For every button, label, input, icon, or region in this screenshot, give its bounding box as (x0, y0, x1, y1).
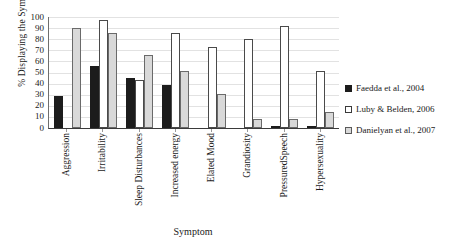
bar (316, 71, 325, 128)
y-axis-tick-label: 50 (20, 68, 44, 77)
x-axis-label-cell: Aggression (48, 133, 84, 221)
x-axis-label-cell: Elated Mood (193, 133, 229, 221)
legend-item-label: Faedda et al., 2004 (356, 83, 424, 93)
chart-legend: Faedda et al., 2004Luby & Belden, 2006Da… (345, 83, 457, 146)
bar (126, 78, 135, 128)
y-axis-tick-label: 30 (20, 90, 44, 99)
x-axis-tick-labels: AggressionIrritabilitySleep Disturbances… (48, 133, 338, 221)
x-axis-label-cell: Grandiosity (229, 133, 265, 221)
x-axis-label-cell: Increased energy (157, 133, 193, 221)
x-axis-tick-label: Aggression (61, 133, 71, 176)
bar-group (122, 17, 158, 128)
x-axis-tick-label: PressuredSpeech (279, 133, 289, 197)
legend-swatch-icon (345, 85, 352, 92)
bar (217, 94, 226, 128)
bar-group (158, 17, 194, 128)
legend-swatch-icon (345, 127, 352, 134)
x-axis-tick-label: Increased energy (170, 133, 180, 197)
bar (171, 33, 180, 128)
y-axis-tick-label: 90 (20, 24, 44, 33)
x-axis-label-cell: Sleep Disturbances (121, 133, 157, 221)
bar (144, 55, 153, 128)
bar (162, 85, 171, 128)
bar-group (85, 17, 121, 128)
y-axis-tick-label: 100 (20, 13, 44, 22)
x-axis-label-cell: PressuredSpeech (266, 133, 302, 221)
y-axis-tick-label: 40 (20, 79, 44, 88)
legend-item[interactable]: Faedda et al., 2004 (345, 83, 457, 93)
y-axis-tick-label: 10 (20, 112, 44, 121)
bar-group (230, 17, 266, 128)
plot-area (48, 17, 339, 129)
bar-groups (49, 17, 339, 128)
x-axis-tick-label: Irritability (97, 133, 107, 172)
bar-group (267, 17, 303, 128)
y-axis-tick-labels: 1009080706050403020100 (20, 13, 44, 129)
bar (54, 96, 63, 128)
x-axis-tick-label: Elated Mood (206, 133, 216, 182)
legend-item[interactable]: Luby & Belden, 2006 (345, 104, 457, 114)
bar-group (49, 17, 85, 128)
bar (307, 126, 316, 128)
bar-chart: % Displaying the Symptom 100908070605040… (0, 0, 457, 250)
legend-item-label: Danielyan et al., 2007 (356, 125, 435, 135)
x-axis-label-cell: Irritability (84, 133, 120, 221)
legend-item[interactable]: Danielyan et al., 2007 (345, 125, 457, 135)
x-axis-title: Symptom (48, 226, 338, 237)
bar-group (303, 17, 339, 128)
bar (289, 119, 298, 128)
y-axis-tick-label: 70 (20, 46, 44, 55)
bar (180, 71, 189, 128)
legend-swatch-icon (345, 106, 352, 113)
x-axis-tick-label: Hypersexuality (315, 133, 325, 191)
bar (271, 126, 280, 128)
y-axis-tick-label: 60 (20, 57, 44, 66)
x-axis-tick-label: Sleep Disturbances (134, 133, 144, 206)
bar (325, 112, 334, 128)
bar (99, 20, 108, 128)
x-axis-tick-label: Grandiosity (242, 133, 252, 178)
y-axis-tick-label: 20 (20, 101, 44, 110)
bar (244, 39, 253, 128)
bar (108, 33, 117, 128)
bar (280, 26, 289, 128)
legend-item-label: Luby & Belden, 2006 (356, 104, 435, 114)
bar (253, 119, 262, 128)
bar (135, 80, 144, 128)
bar-group (194, 17, 230, 128)
y-axis-tick-label: 0 (20, 124, 44, 133)
bar (90, 66, 99, 128)
y-axis-tick-label: 80 (20, 35, 44, 44)
bar (72, 28, 81, 128)
bar (208, 47, 217, 128)
x-axis-label-cell: Hypersexuality (302, 133, 338, 221)
